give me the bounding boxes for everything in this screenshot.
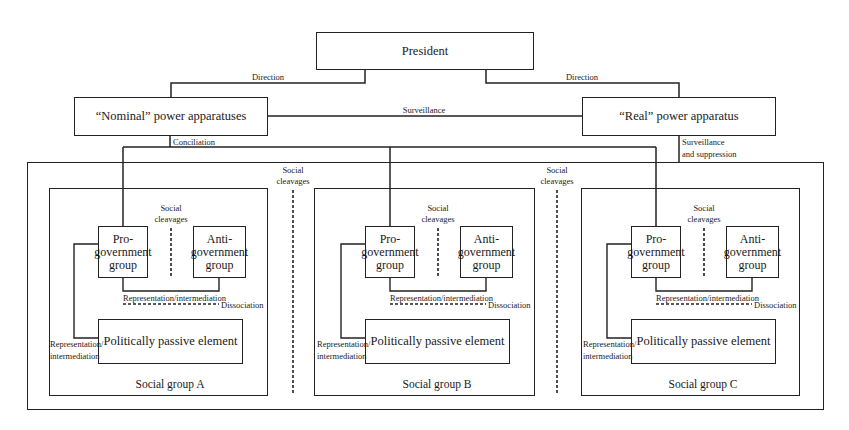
- anti-government-group-c: Anti-governmentgroup: [726, 226, 779, 278]
- power-structure-diagram: President “Nominal” power apparatuses “R…: [0, 0, 849, 430]
- direction-left-label: Direction: [252, 72, 284, 82]
- anti-label-2: government: [458, 245, 515, 259]
- social-group-a-title: Social group A: [136, 378, 205, 390]
- pro-label-3: group: [642, 258, 670, 272]
- passive-element-b: Politically passive element: [365, 319, 510, 364]
- pro-government-group-b: Pro-governmentgroup: [365, 226, 415, 278]
- cleavage-a-label-2: cleavages: [154, 214, 187, 224]
- social-group-b-title: Social group B: [403, 378, 472, 390]
- real-power-label: “Real” power apparatus: [619, 109, 738, 124]
- president-label: President: [402, 44, 449, 59]
- surveillance-suppression-label-1: Surveillance: [682, 137, 724, 147]
- pro-label-2: government: [94, 245, 151, 259]
- social-group-c-title: Social group C: [669, 378, 738, 390]
- cleavage-c-label-1: Social: [693, 203, 714, 213]
- nominal-power-label: “Nominal” power apparatuses: [96, 109, 247, 124]
- anti-government-group-a: Anti-governmentgroup: [193, 226, 246, 278]
- anti-label-3: group: [739, 258, 767, 272]
- outer-cleavage-right-label-2: cleavages: [540, 176, 573, 186]
- passive-label: Politically passive element: [104, 334, 238, 349]
- conciliation-label: Conciliation: [173, 137, 215, 147]
- rep-side-c-label-2: intermediation: [583, 351, 629, 361]
- dissociation-a-label: Dissociation: [221, 300, 264, 310]
- rep-side-b-label-2: intermediation: [317, 351, 363, 361]
- passive-label: Politically passive element: [637, 334, 771, 349]
- cleavage-c-label-2: cleavages: [687, 214, 720, 224]
- rep-side-a-label-1: Representation/: [50, 339, 96, 349]
- anti-label-3: group: [206, 258, 234, 272]
- real-power-box: “Real” power apparatus: [582, 97, 776, 136]
- rep-side-a-label-2: intermediation: [50, 351, 96, 361]
- anti-label-3: group: [473, 258, 501, 272]
- dissociation-c-label: Dissociation: [754, 300, 797, 310]
- outer-cleavage-right-label-1: Social: [546, 165, 567, 175]
- rep-side-c-label-1: Representation/: [583, 339, 629, 349]
- dissociation-b-label: Dissociation: [488, 300, 531, 310]
- anti-government-group-b: Anti-governmentgroup: [460, 226, 513, 278]
- nominal-power-box: “Nominal” power apparatuses: [74, 97, 268, 136]
- pro-label-1: Pro-: [380, 232, 401, 246]
- rep-inter-b-label: Representation/intermediation: [390, 293, 493, 303]
- pro-label-3: group: [376, 258, 404, 272]
- cleavage-a-label-1: Social: [160, 203, 181, 213]
- anti-label-2: government: [191, 245, 248, 259]
- direction-right-label: Direction: [566, 72, 598, 82]
- cleavage-b-label-2: cleavages: [421, 214, 454, 224]
- anti-label-1: Anti-: [740, 232, 765, 246]
- passive-element-c: Politically passive element: [631, 319, 776, 364]
- pro-label-1: Pro-: [646, 232, 667, 246]
- outer-cleavage-left-label-2: cleavages: [276, 176, 309, 186]
- rep-inter-c-label: Representation/intermediation: [656, 293, 759, 303]
- anti-label-1: Anti-: [207, 232, 232, 246]
- pro-government-group-c: Pro-governmentgroup: [631, 226, 681, 278]
- anti-label-2: government: [724, 245, 781, 259]
- president-box: President: [316, 32, 534, 70]
- surveillance-label: Surveillance: [403, 105, 445, 115]
- pro-label-2: government: [627, 245, 684, 259]
- passive-label: Politically passive element: [371, 334, 505, 349]
- rep-side-b-label-1: Representation/: [317, 339, 363, 349]
- pro-government-group-a: Pro-governmentgroup: [98, 226, 148, 278]
- anti-label-1: Anti-: [474, 232, 499, 246]
- cleavage-b-label-1: Social: [427, 203, 448, 213]
- pro-label-3: group: [109, 258, 137, 272]
- surveillance-suppression-label-2: and suppression: [682, 149, 737, 159]
- pro-label-1: Pro-: [113, 232, 134, 246]
- outer-cleavage-left-label-1: Social: [282, 165, 303, 175]
- passive-element-a: Politically passive element: [98, 319, 243, 364]
- pro-label-2: government: [361, 245, 418, 259]
- rep-inter-a-label: Representation/intermediation: [123, 293, 226, 303]
